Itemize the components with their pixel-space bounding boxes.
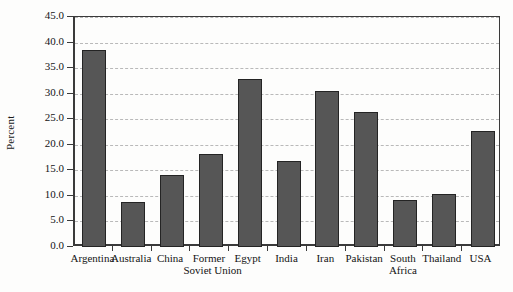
bar <box>82 50 106 247</box>
plot-area <box>73 16 500 246</box>
y-axis-tick-label: 20.0 <box>24 138 64 149</box>
y-axis-tick-label: 30.0 <box>24 87 64 98</box>
y-axis-title: Percent <box>4 98 26 168</box>
x-axis-tick <box>422 246 423 251</box>
x-axis-tick <box>151 246 152 251</box>
y-axis-tick-label: 25.0 <box>24 112 64 123</box>
y-axis-tick-label: 10.0 <box>24 189 64 200</box>
y-axis-tick-label: 45.0 <box>24 10 64 21</box>
x-axis-tick <box>228 246 229 251</box>
x-axis-category-label: USA <box>455 253 506 265</box>
bar <box>160 175 184 247</box>
gridline <box>75 43 499 44</box>
x-axis-tick <box>345 246 346 251</box>
bar <box>277 161 301 247</box>
x-axis-tick <box>461 246 462 251</box>
y-axis-tick-label: 5.0 <box>24 214 64 225</box>
y-axis-tick <box>67 246 73 247</box>
y-axis-tick-label: 0.0 <box>24 240 64 251</box>
bar <box>238 79 262 247</box>
y-axis-tick-label: 40.0 <box>24 36 64 47</box>
y-axis-tick-label: 35.0 <box>24 61 64 72</box>
bar <box>315 91 339 247</box>
chart-page: Percent 0.05.010.015.020.025.030.035.040… <box>0 0 513 292</box>
y-axis-tick-label: 15.0 <box>24 163 64 174</box>
gridline <box>75 94 499 95</box>
x-axis-tick-label: USA <box>455 253 506 265</box>
gridline <box>75 17 499 18</box>
x-axis-tick-label-line2: Africa <box>378 265 429 277</box>
gridline <box>75 145 499 146</box>
bar <box>393 200 417 247</box>
x-axis-tick <box>267 246 268 251</box>
x-axis-tick <box>189 246 190 251</box>
x-axis-tick <box>112 246 113 251</box>
x-axis-tick-label-line2: Soviet Union <box>183 265 234 277</box>
gridline <box>75 119 499 120</box>
x-axis-tick <box>384 246 385 251</box>
bar <box>121 202 145 247</box>
x-axis-tick <box>306 246 307 251</box>
gridline <box>75 68 499 69</box>
bar <box>354 112 378 247</box>
bar <box>199 154 223 247</box>
bar <box>432 194 456 247</box>
bar <box>471 131 495 247</box>
